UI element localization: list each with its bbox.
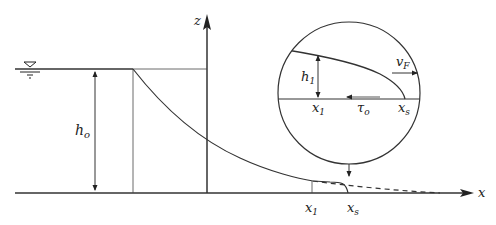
diagram-canvas: x z ho x1 xs h1 x1 bbox=[0, 0, 496, 225]
detail-inset: h1 x1 τo xs vF bbox=[270, 22, 430, 164]
water-level-icon bbox=[20, 62, 40, 78]
inset-circle bbox=[278, 22, 420, 164]
ideal-profile-dashed bbox=[313, 181, 440, 193]
x1-label: x1 bbox=[305, 200, 318, 217]
xs-label: xs bbox=[347, 200, 359, 217]
h0-label: ho bbox=[75, 122, 90, 140]
x-axis-label: x bbox=[478, 185, 486, 200]
z-axis-label: z bbox=[193, 13, 201, 28]
